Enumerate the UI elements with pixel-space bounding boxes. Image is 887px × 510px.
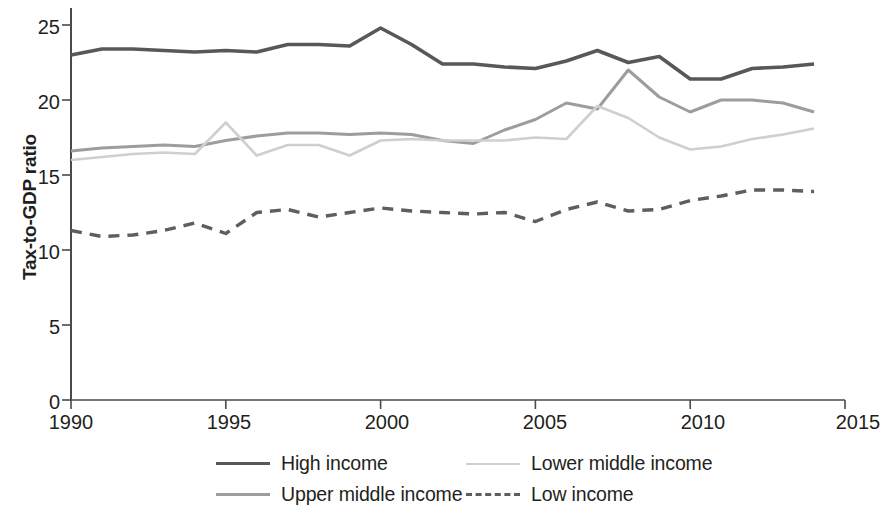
legend-label-low-income: Low income <box>531 483 634 506</box>
plot-area <box>0 0 887 445</box>
data-series-group <box>71 28 814 237</box>
legend-item-lower-middle-income[interactable]: Lower middle income <box>466 452 776 475</box>
x-axis-ticks <box>71 400 845 409</box>
legend-label-upper-middle-income: Upper middle income <box>281 483 462 506</box>
legend-swatch-upper-middle-income <box>216 493 270 496</box>
legend-item-high-income[interactable]: High income <box>216 452 466 475</box>
series-line-upper-middle-income <box>71 70 814 151</box>
y-axis-ticks <box>62 25 71 400</box>
axis-lines <box>71 8 845 400</box>
series-line-high-income <box>71 28 814 79</box>
legend-label-lower-middle-income: Lower middle income <box>531 452 712 475</box>
legend-item-upper-middle-income[interactable]: Upper middle income <box>216 483 466 506</box>
legend-swatch-low-income <box>466 493 520 496</box>
chart-figure: Tax-to-GDP ratio 25 20 15 10 5 0 1990 19… <box>0 0 887 510</box>
series-line-low-income <box>71 190 814 237</box>
series-line-lower-middle-income <box>71 106 814 160</box>
legend-swatch-lower-middle-income <box>466 463 520 465</box>
chart-legend: High income Lower middle income Upper mi… <box>216 448 776 510</box>
legend-item-low-income[interactable]: Low income <box>466 483 776 506</box>
legend-label-high-income: High income <box>281 452 388 475</box>
legend-swatch-high-income <box>216 462 270 465</box>
